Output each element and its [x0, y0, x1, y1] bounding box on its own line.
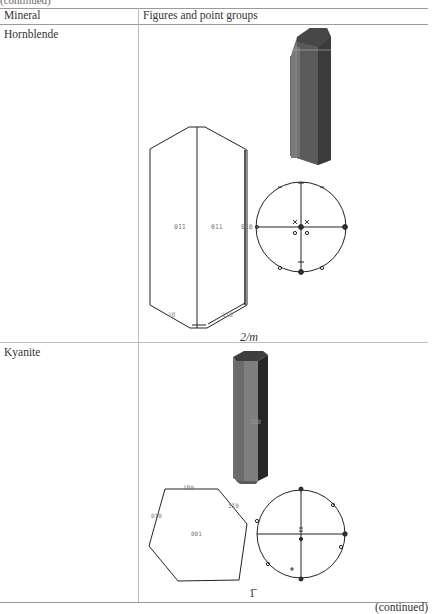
kyanite-figures: 100 1̅00 1̅10 010 001	[0, 0, 434, 614]
face-label-010: 010	[151, 512, 162, 519]
continued-bottom-label: (continued)	[375, 601, 428, 613]
prism-label-100: 100	[250, 418, 261, 425]
face-label-001: 001	[191, 530, 202, 537]
face-label-1-10: 1̅10	[228, 502, 239, 509]
face-label-100: 1̅00	[183, 484, 194, 491]
kyanite-stereogram-icon	[255, 487, 347, 581]
point-group-kyanite: 1̄	[249, 586, 255, 601]
